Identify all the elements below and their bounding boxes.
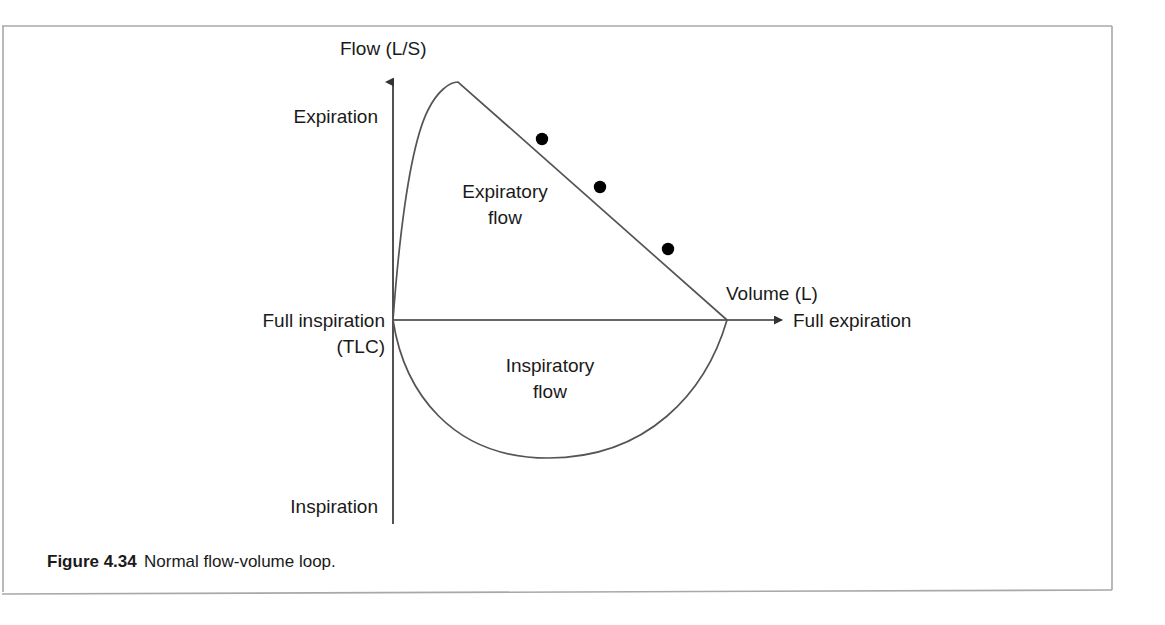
full-inspiration-label-line1: Full inspiration bbox=[263, 310, 386, 331]
expiratory-flow-label-line1: Expiratory bbox=[462, 181, 548, 202]
inspiration-label: Inspiration bbox=[290, 496, 378, 517]
flow-marker-3 bbox=[662, 243, 674, 255]
inspiratory-flow-label-line1: Inspiratory bbox=[506, 355, 595, 376]
figure-caption-label: Figure 4.34 bbox=[47, 552, 137, 571]
inspiratory-flow-label-line2: flow bbox=[533, 381, 567, 402]
expiratory-flow-label-line2: flow bbox=[488, 207, 522, 228]
figure-caption-text: Normal flow-volume loop. bbox=[144, 552, 336, 571]
expiration-label: Expiration bbox=[294, 106, 379, 127]
x-axis-title: Volume (L) bbox=[726, 283, 818, 304]
axis-lines bbox=[393, 82, 782, 524]
flow-volume-loop-figure: Flow (L/S) Expiration Inspiration Full i… bbox=[0, 0, 1165, 625]
full-inspiration-label-line2: (TLC) bbox=[336, 336, 385, 357]
flow-marker-1 bbox=[536, 133, 548, 145]
flow-markers bbox=[536, 133, 674, 255]
expiratory-flow-curve bbox=[393, 82, 727, 320]
flow-marker-2 bbox=[594, 181, 606, 193]
full-expiration-label: Full expiration bbox=[793, 310, 911, 331]
figure-container: Flow (L/S) Expiration Inspiration Full i… bbox=[0, 0, 1165, 625]
y-axis-title: Flow (L/S) bbox=[340, 38, 427, 59]
figure-border bbox=[2, 26, 1112, 594]
